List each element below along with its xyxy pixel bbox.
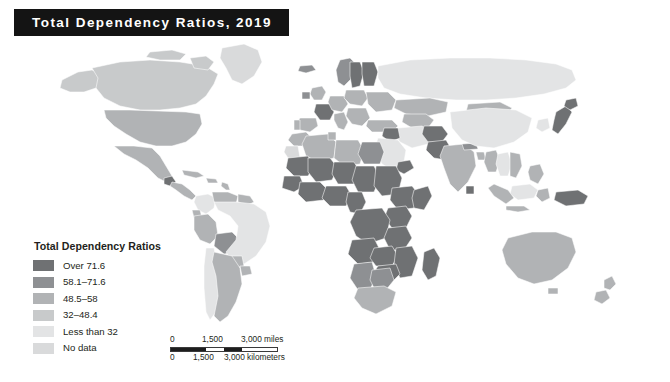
region-western-sahara [284, 146, 300, 158]
region-portugal [294, 120, 300, 130]
scale-tick: 3,000 kilometers [224, 353, 285, 361]
map-title-banner: Total Dependency Ratios, 2019 [14, 9, 289, 36]
region-uruguay [240, 266, 252, 276]
region-tunisia [328, 132, 336, 140]
region-vietnam [510, 152, 522, 178]
legend-swatch-icon [33, 343, 54, 354]
legend-item-label: 58.1–71.6 [63, 277, 106, 287]
region-ukraine-belarus [366, 92, 396, 112]
scale-tick: 3,000 miles [241, 335, 283, 343]
scale-tick: 0 [170, 353, 175, 361]
scale-tick: 0 [170, 335, 175, 343]
region-italy [334, 112, 348, 130]
region-kazakhstan [394, 98, 448, 116]
region-united-states [104, 110, 202, 146]
region-mexico [114, 146, 172, 182]
region-central-america [170, 182, 196, 200]
region-cuba [182, 170, 204, 178]
region-greenland [220, 44, 262, 84]
legend-item-less-than-32: Less than 32 [33, 324, 160, 339]
legend-item-label: 48.5–58 [63, 294, 98, 304]
region-china [450, 108, 532, 148]
legend-item-label: Less than 32 [63, 327, 118, 337]
region-zambia [370, 246, 398, 266]
scale-tick: 1,500 [193, 353, 214, 361]
region-madagascar [422, 248, 440, 280]
legend-swatch-icon [33, 277, 54, 288]
region-afghanistan [422, 126, 448, 142]
legend-swatch-icon [33, 293, 54, 304]
region-balkans [346, 108, 370, 126]
region-lesser-antilles [221, 182, 230, 190]
region-peru [194, 214, 218, 244]
region-philippines [528, 164, 544, 184]
region-finland [362, 62, 378, 86]
scale-kilometers-ticks: 0 1,500 3,000 kilometers [170, 353, 290, 364]
legend-swatch-icon [33, 326, 54, 337]
map-legend: Total Dependency Ratios Over 71.6 58.1–7… [22, 231, 170, 366]
region-ireland [302, 92, 310, 99]
region-japan [552, 106, 572, 134]
region-java [506, 206, 530, 212]
region-sumatra [488, 184, 514, 204]
region-papua-new-guinea [554, 190, 588, 206]
region-united-kingdom [310, 86, 326, 100]
page-title: Total Dependency Ratios, 2019 [32, 16, 272, 30]
map-figure: Total Dependency Ratios, 2019 Total Depe… [0, 0, 670, 382]
map-scale-bar: 0 1,500 3,000 miles 0 1,500 3,000 kilome… [170, 335, 290, 364]
region-somalia [412, 186, 432, 210]
legend-item-no-data: No data [33, 341, 160, 356]
scale-segment [224, 348, 242, 351]
legend-item-58-1-71-6: 58.1–71.6 [33, 275, 160, 290]
region-korea [536, 118, 550, 132]
region-canada-arctic [146, 50, 186, 60]
region-egypt [358, 142, 384, 164]
scale-tick: 1,500 [202, 335, 223, 343]
region-australia [502, 232, 576, 284]
region-india [440, 144, 476, 192]
legend-item-over-71-6: Over 71.6 [33, 258, 160, 273]
region-sri-lanka [466, 186, 474, 194]
legend-item-48-5-58: 48.5–58 [33, 291, 160, 306]
legend-item-label: Over 71.6 [63, 261, 105, 271]
region-malaysia-borneo [510, 184, 538, 200]
legend-item-label: 32–48.4 [63, 310, 98, 320]
region-new-zealand [604, 276, 616, 290]
legend-item-label: No data [63, 343, 97, 353]
scale-miles-ticks: 0 1,500 3,000 miles [170, 335, 290, 346]
region-south-africa [354, 286, 396, 314]
region-iceland [298, 65, 316, 73]
region-sulawesi [536, 188, 550, 202]
legend-swatch-icon [33, 260, 54, 271]
scale-segment [171, 348, 206, 351]
legend-item-32-48-4: 32–48.4 [33, 308, 160, 323]
region-hispaniola [206, 178, 218, 183]
region-tasmania [548, 288, 558, 294]
region-russia [378, 58, 576, 100]
region-new-zealand-south [594, 290, 610, 304]
legend-swatch-icon [33, 310, 54, 321]
legend-title: Total Dependency Ratios [34, 240, 160, 252]
region-thailand-laos [496, 152, 512, 176]
